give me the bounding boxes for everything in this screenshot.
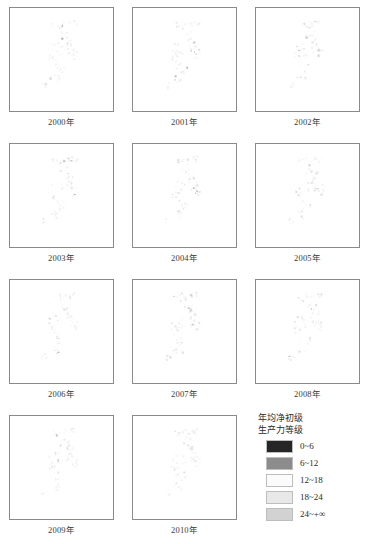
legend-item-label: 24~+∞ bbox=[300, 510, 325, 519]
legend-color-swatch bbox=[266, 491, 293, 504]
map-panel[interactable] bbox=[255, 7, 360, 112]
map-raster-svg bbox=[133, 144, 236, 247]
map-raster bbox=[133, 280, 236, 383]
panel-year-label: 2007年 bbox=[171, 390, 198, 399]
map-raster-svg bbox=[10, 144, 113, 247]
panel-year-label: 2008年 bbox=[294, 390, 321, 399]
map-raster-svg bbox=[133, 280, 236, 383]
map-cell: 2002年 bbox=[246, 0, 369, 136]
panel-year-label: 2010年 bbox=[171, 526, 198, 535]
map-raster-svg bbox=[256, 144, 359, 247]
map-panel[interactable] bbox=[132, 143, 237, 248]
legend-item-label: 12~18 bbox=[300, 476, 323, 485]
legend-title-line-1: 年均净初级 bbox=[258, 413, 369, 425]
legend-color-swatch bbox=[266, 440, 293, 453]
map-cell: 2000年 bbox=[0, 0, 123, 136]
panel-grid: 2000年 2001年 2002年 2003年 2004年 bbox=[0, 0, 369, 544]
legend-item[interactable]: 18~24 bbox=[266, 491, 369, 504]
map-cell: 2010年 bbox=[123, 408, 246, 544]
legend-title: 年均净初级 生产力等级 bbox=[258, 413, 369, 436]
legend-color-swatch bbox=[266, 457, 293, 470]
map-raster bbox=[10, 8, 113, 111]
map-raster-svg bbox=[10, 416, 113, 519]
map-cell: 2001年 bbox=[123, 0, 246, 136]
legend-item-label: 18~24 bbox=[300, 493, 323, 502]
legend-class-list: 0~6 6~12 12~18 18~24 24~+∞ bbox=[258, 440, 369, 521]
map-panel[interactable] bbox=[9, 7, 114, 112]
map-raster bbox=[133, 8, 236, 111]
map-panel[interactable] bbox=[255, 279, 360, 384]
legend-item-label: 0~6 bbox=[300, 442, 314, 451]
legend: 年均净初级 生产力等级 0~6 6~12 12~18 18~2 bbox=[246, 408, 369, 544]
map-raster-svg bbox=[256, 8, 359, 111]
map-panel[interactable] bbox=[132, 7, 237, 112]
map-raster-svg bbox=[10, 8, 113, 111]
map-cell: 2007年 bbox=[123, 272, 246, 408]
map-cell: 2008年 bbox=[246, 272, 369, 408]
map-raster bbox=[133, 416, 236, 519]
map-raster bbox=[133, 144, 236, 247]
legend-item[interactable]: 6~12 bbox=[266, 457, 369, 470]
legend-item[interactable]: 24~+∞ bbox=[266, 508, 369, 521]
map-cell: 2006年 bbox=[0, 272, 123, 408]
legend-item-label: 6~12 bbox=[300, 459, 318, 468]
map-raster bbox=[256, 144, 359, 247]
map-raster-svg bbox=[133, 416, 236, 519]
figure-small-multiples-maps: 2000年 2001年 2002年 2003年 2004年 bbox=[0, 0, 369, 544]
map-panel[interactable] bbox=[9, 415, 114, 520]
legend-item[interactable]: 12~18 bbox=[266, 474, 369, 487]
legend-color-swatch bbox=[266, 474, 293, 487]
map-raster bbox=[10, 144, 113, 247]
panel-year-label: 2003年 bbox=[48, 254, 75, 263]
panel-year-label: 2006年 bbox=[48, 390, 75, 399]
map-panel[interactable] bbox=[255, 143, 360, 248]
map-raster bbox=[10, 280, 113, 383]
map-cell: 2004年 bbox=[123, 136, 246, 272]
map-raster bbox=[256, 8, 359, 111]
map-raster-svg bbox=[256, 280, 359, 383]
panel-year-label: 2004年 bbox=[171, 254, 198, 263]
map-raster-svg bbox=[10, 280, 113, 383]
panel-year-label: 2001年 bbox=[171, 118, 198, 127]
panel-year-label: 2002年 bbox=[294, 118, 321, 127]
panel-year-label: 2000年 bbox=[48, 118, 75, 127]
map-panel[interactable] bbox=[132, 415, 237, 520]
map-raster-svg bbox=[133, 8, 236, 111]
map-raster bbox=[256, 280, 359, 383]
map-cell: 2009年 bbox=[0, 408, 123, 544]
map-panel[interactable] bbox=[9, 279, 114, 384]
map-cell: 2005年 bbox=[246, 136, 369, 272]
panel-year-label: 2005年 bbox=[294, 254, 321, 263]
legend-color-swatch bbox=[266, 508, 293, 521]
legend-item[interactable]: 0~6 bbox=[266, 440, 369, 453]
legend-title-line-2: 生产力等级 bbox=[258, 425, 369, 437]
map-raster bbox=[10, 416, 113, 519]
map-panel[interactable] bbox=[132, 279, 237, 384]
map-cell: 2003年 bbox=[0, 136, 123, 272]
map-panel[interactable] bbox=[9, 143, 114, 248]
panel-year-label: 2009年 bbox=[48, 526, 75, 535]
